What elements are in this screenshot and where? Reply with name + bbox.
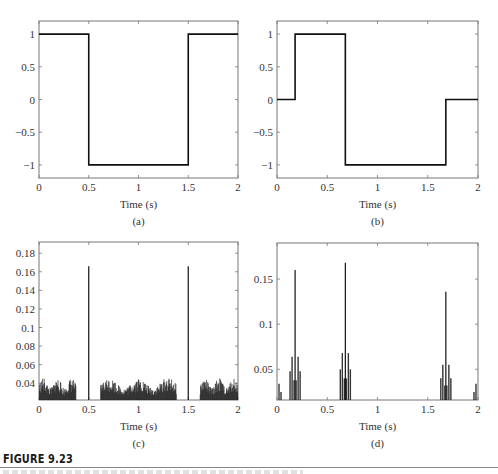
x-tick-label: 1 bbox=[136, 403, 142, 415]
figure-canvas: 00.511.52−1−0.500.51Time (s)(a)00.511.52… bbox=[0, 0, 498, 474]
y-tick-label: 0 bbox=[30, 94, 36, 106]
y-tick-label: 0.1 bbox=[21, 322, 35, 334]
x-tick-label: 0.5 bbox=[82, 181, 96, 193]
x-tick-label: 0 bbox=[274, 403, 280, 415]
y-tick-label: −1 bbox=[23, 159, 35, 171]
y-tick-label: 0.5 bbox=[259, 61, 273, 73]
y-tick-label: 0.16 bbox=[16, 266, 36, 278]
y-tick-label: −0.5 bbox=[15, 126, 35, 138]
plot-frame bbox=[39, 21, 238, 178]
caption-divider bbox=[0, 467, 498, 468]
x-tick-label: 2 bbox=[475, 403, 481, 415]
y-tick-label: 0.12 bbox=[16, 303, 35, 315]
y-tick-label: 1 bbox=[30, 28, 36, 40]
panel-label: (c) bbox=[132, 437, 145, 450]
x-tick-label: 1 bbox=[375, 403, 381, 415]
y-tick-label: 0.04 bbox=[16, 377, 36, 389]
chart-panel-c: 00.511.520.040.060.080.10.120.140.160.18… bbox=[16, 242, 241, 450]
chart-panel-d: 00.511.520.050.10.15Time (s)(d) bbox=[254, 243, 481, 450]
x-tick-label: 2 bbox=[475, 181, 481, 193]
panel-label: (a) bbox=[132, 215, 145, 228]
x-tick-label: 1 bbox=[375, 181, 381, 193]
plot-series bbox=[277, 34, 478, 165]
figure-title: FIGURE 9.23 bbox=[3, 452, 73, 466]
plot-frame bbox=[277, 243, 478, 400]
x-axis-label: Time (s) bbox=[120, 198, 158, 211]
chart-panel-b: 00.511.52−1−0.500.51Time (s)(b) bbox=[253, 21, 481, 228]
y-tick-label: 0 bbox=[268, 94, 274, 106]
x-tick-label: 2 bbox=[235, 181, 241, 193]
x-tick-label: 1.5 bbox=[421, 403, 435, 415]
y-tick-label: 0.06 bbox=[16, 359, 36, 371]
plot-frame bbox=[39, 242, 238, 400]
x-tick-label: 1.5 bbox=[181, 403, 195, 415]
y-tick-label: 0.5 bbox=[21, 61, 35, 73]
y-tick-label: 1 bbox=[268, 28, 274, 40]
y-tick-label: 0.05 bbox=[254, 363, 274, 375]
y-tick-label: −1 bbox=[261, 159, 273, 171]
x-tick-label: 0 bbox=[36, 403, 42, 415]
caption-text-cropped bbox=[3, 470, 303, 474]
x-tick-label: 0 bbox=[274, 181, 280, 193]
plot-series bbox=[279, 263, 476, 400]
x-tick-label: 0.5 bbox=[320, 181, 334, 193]
y-tick-label: 0.08 bbox=[16, 340, 36, 352]
x-tick-label: 1.5 bbox=[181, 181, 195, 193]
x-axis-label: Time (s) bbox=[120, 420, 158, 433]
x-tick-label: 1.5 bbox=[421, 181, 435, 193]
x-axis-label: Time (s) bbox=[359, 198, 397, 211]
y-tick-label: 0.15 bbox=[254, 273, 274, 285]
x-tick-label: 0.5 bbox=[320, 403, 334, 415]
x-tick-label: 0.5 bbox=[82, 403, 96, 415]
y-tick-label: 0.18 bbox=[16, 247, 36, 259]
plot-series bbox=[39, 266, 238, 400]
x-tick-label: 1 bbox=[136, 181, 142, 193]
chart-panel-a: 00.511.52−1−0.500.51Time (s)(a) bbox=[15, 21, 241, 228]
y-tick-label: 0.14 bbox=[16, 284, 36, 296]
panel-label: (b) bbox=[371, 215, 384, 228]
panel-label: (d) bbox=[371, 437, 384, 450]
plot-series bbox=[39, 34, 238, 165]
x-axis-label: Time (s) bbox=[359, 420, 397, 433]
x-tick-label: 2 bbox=[235, 403, 241, 415]
x-tick-label: 0 bbox=[36, 181, 42, 193]
y-tick-label: 0.1 bbox=[259, 318, 273, 330]
y-tick-label: −0.5 bbox=[253, 126, 273, 138]
